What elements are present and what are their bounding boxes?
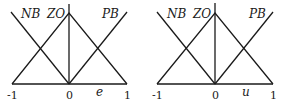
- membership-functions-figure: NB ZO PB -1 0 1 e NB ZO PB -1 0 1 u: [0, 0, 287, 103]
- axis-var-u: u: [242, 85, 250, 99]
- chart-e: NB ZO PB -1 0 1 e: [7, 4, 131, 102]
- nb-label-u: NB: [166, 7, 187, 21]
- tick-max-e: 1: [124, 89, 131, 102]
- chart-u: NB ZO PB -1 0 1 u: [152, 3, 277, 102]
- tick-min-e: -1: [7, 89, 18, 102]
- zo-label-e: ZO: [46, 7, 65, 21]
- tick-zero-u: 0: [212, 89, 219, 102]
- zo-label-u: ZO: [192, 7, 211, 21]
- pb-label-e: PB: [101, 7, 119, 21]
- pb-label-u: PB: [248, 7, 266, 21]
- tick-max-u: 1: [270, 89, 277, 102]
- axis-var-e: e: [96, 85, 103, 99]
- tick-min-u: -1: [152, 89, 163, 102]
- tick-zero-e: 0: [66, 89, 73, 102]
- nb-label-e: NB: [20, 7, 41, 21]
